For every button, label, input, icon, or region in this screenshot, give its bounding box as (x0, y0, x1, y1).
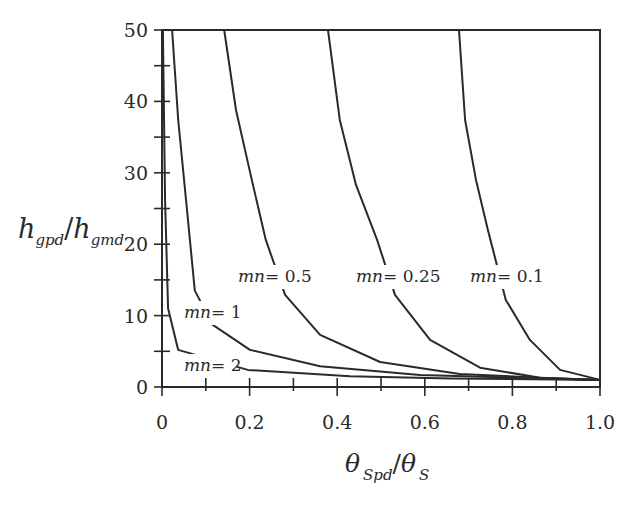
plot-border (162, 30, 600, 387)
y-tick-label: 40 (124, 90, 148, 112)
x-axis-title: θSpd/θS (345, 449, 429, 484)
curve-labels: mn= 0.5mn= 0.25mn= 0.1mn= 1mn= 2 (180, 265, 544, 378)
y-tick-label: 10 (124, 305, 148, 327)
x-tick-label: 0 (156, 411, 168, 433)
x-tick-label: 0.6 (410, 411, 440, 433)
chart: 00.20.40.60.81.001020304050 mn= 0.5mn= 0… (0, 0, 631, 506)
curve-2 (163, 30, 600, 380)
curve-0-25 (328, 30, 600, 380)
curve-label: mn= 0.1 (470, 266, 544, 286)
plot-frame (162, 30, 600, 387)
curve-label: mn= 1 (184, 302, 242, 322)
curve-0-1 (459, 30, 600, 380)
x-tick-label: 1.0 (585, 411, 615, 433)
y-tick-label: 20 (124, 233, 148, 255)
curve-label: mn= 0.5 (238, 266, 312, 286)
curves (163, 30, 600, 380)
x-tick-label: 0.2 (234, 411, 264, 433)
y-axis-title: hgpd/hgmd (18, 213, 124, 249)
y-tick-label: 0 (136, 376, 148, 398)
curve-label: mn= 2 (184, 355, 242, 375)
curve-label: mn= 0.25 (356, 266, 441, 286)
x-tick-label: 0.4 (322, 411, 352, 433)
y-tick-label: 30 (124, 162, 148, 184)
curve-0-5 (224, 30, 600, 380)
x-tick-label: 0.8 (497, 411, 527, 433)
curve-1 (172, 30, 600, 380)
y-tick-label: 50 (124, 19, 148, 41)
